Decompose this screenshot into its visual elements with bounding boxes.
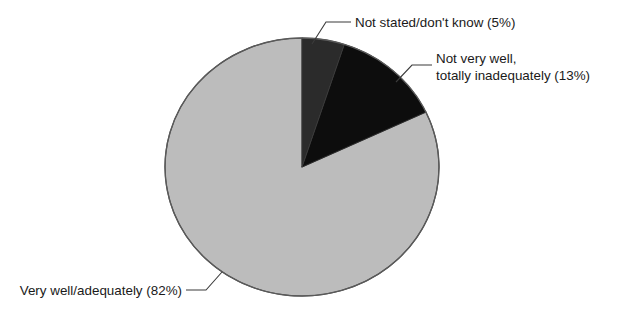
slice-label-not-very-well-line1: Not very well, (436, 51, 516, 66)
pie-chart-canvas: Not stated/don't know (5%) Not very well… (0, 0, 619, 310)
slice-label-not-very-well-line2: totally inadequately (13%) (436, 68, 590, 83)
leader-line-very-well (186, 272, 222, 290)
pie-chart-figure: Not stated/don't know (5%) Not very well… (0, 0, 619, 310)
slice-label-very-well: Very well/adequately (82%) (20, 283, 182, 298)
pie-slices (165, 38, 439, 296)
slice-label-not-stated: Not stated/don't know (5%) (355, 15, 515, 30)
